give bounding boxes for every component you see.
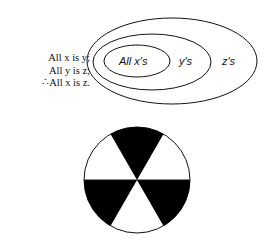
label-zs: z's	[221, 55, 236, 67]
diagram-canvas: All x's y's z's	[0, 0, 271, 243]
label-all-xs: All x's	[118, 55, 148, 67]
middle-ellipse-y	[93, 34, 211, 90]
label-ys: y's	[178, 55, 193, 67]
sector-wheel	[84, 127, 190, 233]
